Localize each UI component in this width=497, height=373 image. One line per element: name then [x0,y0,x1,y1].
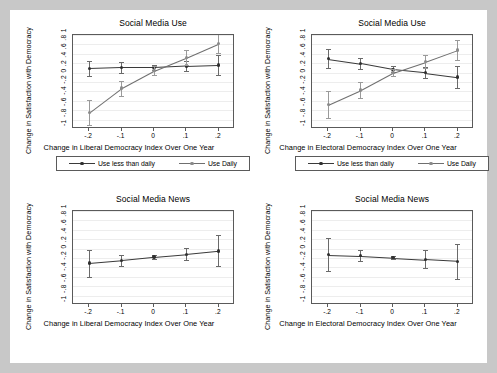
x-axis-ticklabel: .1 [183,308,189,315]
gridline [312,35,472,36]
gridline [73,220,233,221]
data-point [88,111,91,114]
x-axis-ticklabel: -.2 [323,308,331,315]
y-axis-title: Change in Satisfaction with Democracy [24,203,33,330]
series-line [186,43,219,58]
x-axis-ticklabel: .2 [215,132,221,139]
error-bar-cap [87,277,92,278]
data-point [359,88,362,91]
error-bar-cap [184,71,189,72]
legend-item-use-daily[interactable]: Use Daily [418,160,476,167]
x-axis-tick [392,304,393,307]
error-bar-cap [87,250,92,251]
x-axis-tick [218,304,219,307]
data-point [88,261,91,264]
series-line [122,67,154,68]
error-bar-cap [391,76,396,77]
error-bar-cap [326,91,331,92]
data-point [217,249,220,252]
error-bar-cap [216,34,221,35]
error-bar-cap [423,68,428,69]
error-bar-cap [423,268,428,269]
error-bar-cap [455,40,460,41]
x-axis-ticklabel: 0 [390,132,394,139]
x-axis-tick [153,128,154,131]
error-bar-cap [119,266,124,267]
gridline [312,296,472,297]
x-axis-ticklabel: -.1 [117,132,125,139]
error-bar-cap [216,235,221,236]
error-bar-cap [152,75,157,76]
chart-legend: Use less than dailyUse Daily [295,156,489,171]
legend-item-use-less-than-daily[interactable]: Use less than daily [308,160,394,167]
error-bar-cap [119,255,124,256]
gridline [73,296,233,297]
legend-marker-icon [179,163,205,164]
error-bar-cap [455,60,460,61]
error-bar-cap [326,271,331,272]
x-axis-tick [88,304,89,307]
error-bar-cap [119,81,124,82]
series-line [360,63,393,70]
gridline [73,91,233,92]
gridline [312,91,472,92]
data-point [456,260,459,263]
gridline [312,110,472,111]
plot-area [72,34,234,128]
error-bar-cap [423,78,428,79]
x-axis-ticklabel: -.2 [84,308,92,315]
error-bar-cap [358,98,363,99]
error-bar-cap [119,62,124,63]
gridline [73,277,233,278]
error-bar-cap [216,55,221,56]
x-axis-tick [327,304,328,307]
x-axis-ticklabel: -.1 [356,132,364,139]
gridline [73,249,233,250]
x-axis-title: Change in Liberal Democracy Index Over O… [16,319,242,328]
x-axis-ticklabel: 0 [151,132,155,139]
data-point [152,255,155,258]
y-axis-ticklabels: -1 -.8 -.6 -.4 -.2 0 .2 .4 .6 .8 1 [299,204,306,302]
error-bar-cap [358,261,363,262]
x-axis-ticklabel: .1 [422,132,428,139]
gridline [312,82,472,83]
legend-item-use-less-than-daily[interactable]: Use less than daily [69,160,155,167]
figure-canvas: Social Media UseChange in Satisfaction w… [10,10,487,363]
x-axis-ticklabel: 0 [390,308,394,315]
plot-area [311,34,473,128]
data-point [217,63,220,66]
legend-marker-icon [308,163,334,164]
x-axis-tick [121,304,122,307]
chart-panel-bottom-left: Social Media NewsChange in Satisfaction … [10,186,248,362]
error-bar-cap [455,66,460,67]
gridline [312,249,472,250]
data-point [456,48,459,51]
series-line [89,260,121,264]
error-bar-cap [423,250,428,251]
gridline [73,286,233,287]
gridline [312,239,472,240]
data-point [88,67,91,70]
legend-marker-icon [418,163,444,164]
error-bar-cap [391,69,396,70]
error-bar-cap [216,75,221,76]
chart-legend: Use less than dailyUse Daily [56,156,250,171]
data-point [120,66,123,69]
data-point [120,86,123,89]
chart-panel-top-right: Social Media UseChange in Satisfaction w… [249,10,487,186]
data-point [456,75,459,78]
gridline [73,54,233,55]
gridline [312,230,472,231]
gridline [312,211,472,212]
error-bar-cap [455,244,460,245]
chart-panel-top-left: Social Media UseChange in Satisfaction w… [10,10,248,186]
legend-item-use-daily[interactable]: Use Daily [179,160,237,167]
x-axis-ticklabel: -.2 [84,132,92,139]
data-point [424,258,427,261]
gridline [73,110,233,111]
x-axis-tick [424,128,425,131]
x-axis-title: Change in Liberal Democracy Index Over O… [16,143,242,152]
x-axis-tick [424,304,425,307]
x-axis-ticklabel: .2 [215,308,221,315]
y-axis-title: Change in Satisfaction with Democracy [24,27,33,154]
